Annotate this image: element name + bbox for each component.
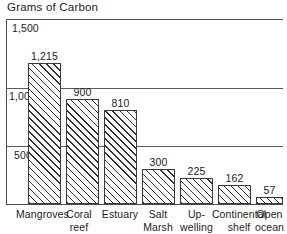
bar-value-upwelling: 225 [180,165,213,177]
category-label-open-ocean: Open ocean [252,208,287,233]
bar-estuary [104,110,137,204]
x-axis-line [6,204,283,205]
category-label-salt-marsh: Salt Marsh [137,208,179,233]
category-label-coral-reef: Coral reef [59,208,99,233]
bar-open-ocean [256,197,283,204]
category-label-line1: Estuary [102,208,138,220]
category-label-line1: Coral [66,208,92,220]
category-label-line1: Salt [149,208,168,220]
bar-chart: Grams of Carbon 1,500 1,000 500 1,215 90… [0,0,287,234]
bar-value-open-ocean: 57 [256,184,283,196]
gridline-1500 [6,19,283,20]
bar-coral-reef [66,99,99,204]
y-axis-line [6,19,7,205]
bar-value-estuary: 810 [104,97,137,109]
chart-title: Grams of Carbon [7,1,98,13]
bar-salt-marsh [142,169,175,204]
plot-area: 1,500 1,000 500 1,215 900 810 300 225 16… [6,19,283,205]
bar-upwelling [180,178,213,204]
bar-mangroves [28,63,61,204]
category-label-estuary: Estuary [99,208,141,221]
bar-value-salt-marsh: 300 [142,156,175,168]
category-label-line1: Open [256,208,282,220]
bar-value-coral-reef: 900 [66,86,99,98]
bar-value-mangroves: 1,215 [28,50,61,62]
y-tick-label-1500: 1,500 [12,22,39,34]
category-label-line1: Up- [188,208,205,220]
bar-value-continental-shelf: 162 [218,172,251,184]
bar-continental-shelf [218,185,251,204]
clipped-caption-strip [0,231,287,234]
